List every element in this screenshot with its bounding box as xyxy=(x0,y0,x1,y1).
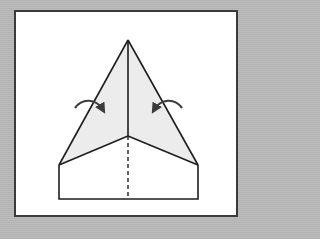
paper-airplane-diagram xyxy=(0,0,252,218)
